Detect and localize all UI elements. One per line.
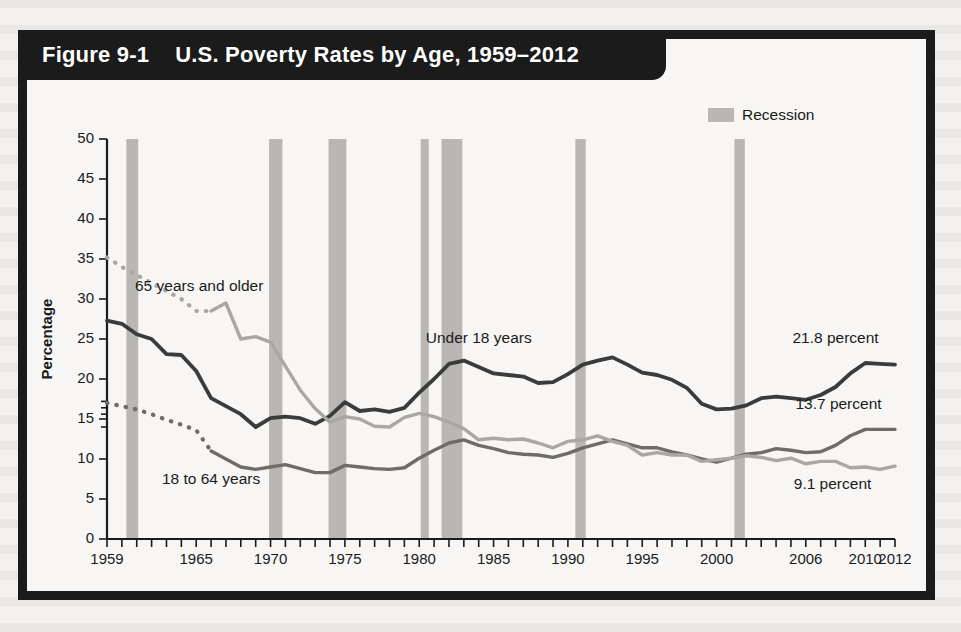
series-annotation: 18 to 64 years <box>162 470 260 487</box>
y-tick-label: 35 <box>77 249 94 266</box>
y-tick-label: 50 <box>77 129 94 146</box>
x-tick-label: 2012 <box>878 550 911 567</box>
x-tick-label: 2006 <box>789 550 822 567</box>
series-line-dotted <box>107 403 211 451</box>
figure-title: U.S. Poverty Rates by Age, 1959–2012 <box>175 42 579 68</box>
series-line <box>211 429 895 472</box>
y-axis-title: Percentage <box>38 299 55 380</box>
series-annotation: 13.7 percent <box>795 395 882 412</box>
recession-band <box>575 139 585 539</box>
recession-band <box>329 139 347 539</box>
y-tick-label: 10 <box>77 449 94 466</box>
y-tick-label: 5 <box>86 489 94 506</box>
x-tick-label: 1980 <box>403 550 436 567</box>
y-tick-label: 40 <box>77 209 94 226</box>
poverty-rate-line-chart: 0510152025303540455019591965197019751980… <box>18 80 935 600</box>
x-tick-label: 1965 <box>180 550 213 567</box>
series-annotation: 21.8 percent <box>792 329 879 346</box>
legend-label-recession: Recession <box>742 106 814 123</box>
series-annotation: 9.1 percent <box>794 475 872 492</box>
x-tick-label: 1959 <box>90 550 123 567</box>
recession-band <box>734 139 744 539</box>
series-line <box>211 303 895 469</box>
y-tick-label: 25 <box>77 329 94 346</box>
y-tick-label: 15 <box>77 409 94 426</box>
series-annotation: 65 years and older <box>135 277 263 294</box>
y-tick-label: 30 <box>77 289 94 306</box>
x-tick-label: 1995 <box>626 550 659 567</box>
x-tick-label: 2010 <box>849 550 882 567</box>
x-tick-label: 1970 <box>254 550 287 567</box>
recession-band <box>126 139 138 539</box>
series-annotation: Under 18 years <box>426 329 532 346</box>
figure-title-bar: Figure 9-1 U.S. Poverty Rates by Age, 19… <box>18 30 666 80</box>
y-tick-label: 45 <box>77 169 94 186</box>
y-tick-label: 0 <box>86 529 94 546</box>
x-tick-label: 2000 <box>700 550 733 567</box>
x-tick-label: 1975 <box>328 550 361 567</box>
recession-band <box>269 139 282 539</box>
legend-swatch-recession <box>708 108 734 122</box>
figure-number: Figure 9-1 <box>42 42 149 68</box>
x-tick-label: 1990 <box>551 550 584 567</box>
y-tick-label: 20 <box>77 369 94 386</box>
chart-area: 0510152025303540455019591965197019751980… <box>18 80 935 600</box>
x-tick-label: 1985 <box>477 550 510 567</box>
